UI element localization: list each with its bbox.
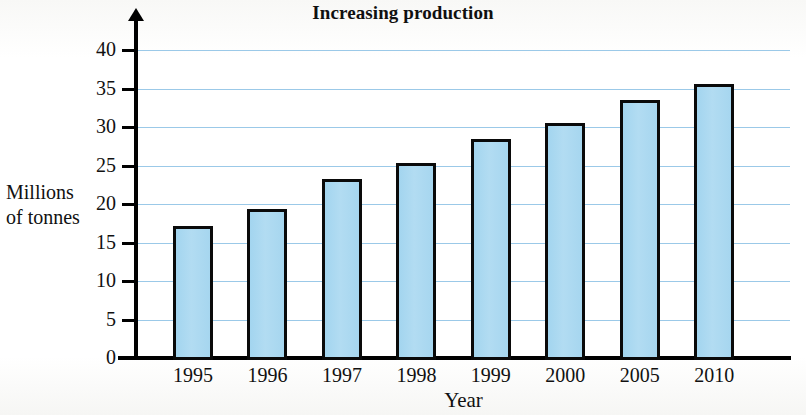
y-axis-tick — [122, 280, 136, 283]
y-axis-tick-label: 20 — [70, 193, 116, 213]
y-axis-tick — [122, 203, 136, 206]
bar — [173, 226, 213, 360]
x-axis-tick-label: 2000 — [528, 363, 602, 387]
bar — [247, 209, 287, 360]
x-axis-tick-label: 1995 — [156, 363, 230, 387]
y-axis-tick-label-text: 10 — [76, 270, 116, 290]
x-axis-tick-label: 1997 — [305, 363, 379, 387]
bar — [545, 123, 585, 360]
y-axis-tick-label: 35 — [70, 78, 116, 98]
y-axis-tick — [122, 126, 136, 129]
x-axis-tick-label: 2010 — [677, 363, 751, 387]
gridline — [137, 166, 790, 167]
y-axis-tick-label: 0 — [70, 347, 116, 367]
gridline — [137, 50, 790, 51]
y-axis-tick-label-text: 20 — [76, 193, 116, 213]
y-axis-tick — [122, 165, 136, 168]
x-axis-tick-label: 1999 — [454, 363, 528, 387]
x-axis-tick-label: 1998 — [379, 363, 453, 387]
y-axis-tick-label-text: 25 — [76, 155, 116, 175]
y-axis-tick-label: 15 — [70, 232, 116, 252]
bar — [322, 179, 362, 360]
gridline — [137, 127, 790, 128]
y-axis-tick-label: 10 — [70, 270, 116, 290]
bar — [620, 100, 660, 360]
y-axis-tick-label-text: 35 — [76, 78, 116, 98]
gridline — [137, 320, 790, 321]
y-axis-tick — [122, 242, 136, 245]
y-axis-tick — [122, 357, 136, 360]
y-axis-tick — [122, 88, 136, 91]
x-axis-title: Year — [137, 388, 790, 413]
y-axis-tick — [122, 319, 136, 322]
y-axis-tick — [122, 49, 136, 52]
y-axis-tick-label: 40 — [70, 39, 116, 59]
y-axis-tick-label: 5 — [70, 309, 116, 329]
bar-chart-figure: Increasing production Millions of tonnes… — [0, 0, 806, 415]
chart-title: Increasing production — [0, 2, 806, 24]
y-axis-tick-label-text: 5 — [76, 309, 116, 329]
x-axis-tick-label: 2005 — [603, 363, 677, 387]
x-axis-line — [118, 356, 791, 360]
y-axis-tick-label-text: 15 — [76, 232, 116, 252]
gridline — [137, 89, 790, 90]
y-axis-tick-label-text: 30 — [76, 116, 116, 136]
gridline — [137, 281, 790, 282]
x-axis-tick-label: 1996 — [230, 363, 304, 387]
y-axis-tick-label: 30 — [70, 116, 116, 136]
plot-area — [137, 50, 790, 358]
bar — [694, 84, 734, 360]
bar — [396, 163, 436, 360]
y-axis-tick-label: 25 — [70, 155, 116, 175]
y-axis-tick-label-text: 0 — [76, 347, 116, 367]
bar — [471, 139, 511, 360]
y-axis-tick-label-text: 40 — [76, 39, 116, 59]
y-axis-arrow-icon — [128, 8, 144, 21]
y-axis-line — [134, 18, 138, 360]
gridline — [137, 243, 790, 244]
gridline — [137, 204, 790, 205]
